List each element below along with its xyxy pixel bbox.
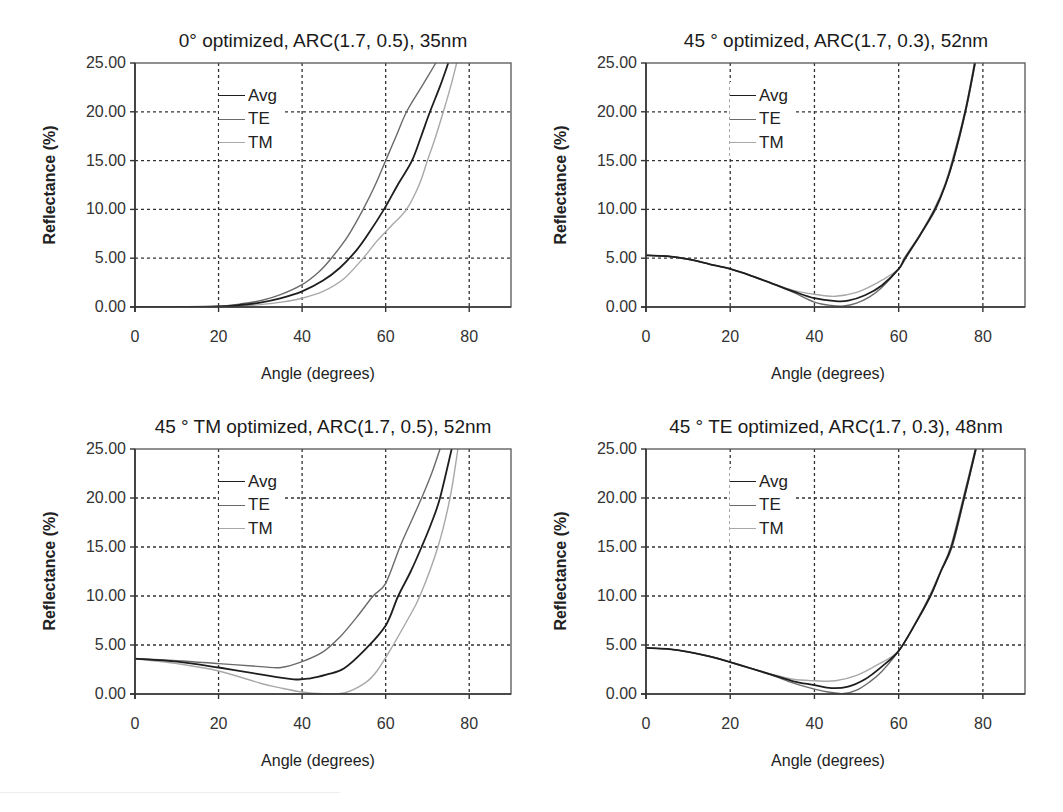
plot-area	[0, 0, 1063, 812]
chart-panel-45deg-te-optimized: 45 ° TE optimized, ARC(1.7, 0.3), 48nm R…	[0, 0, 1063, 812]
legend-label: TM	[759, 519, 784, 539]
legend: Avg TE TM	[730, 468, 794, 543]
scan-artifact-line	[0, 792, 340, 793]
series-line-avg	[646, 449, 976, 688]
series-line-te	[646, 449, 976, 694]
legend-swatch-te	[730, 505, 756, 506]
plot-frame	[646, 449, 1025, 694]
legend-swatch-avg	[730, 481, 756, 482]
legend-swatch-tm	[730, 528, 756, 529]
legend-item-te: TE	[730, 494, 788, 518]
legend-label: Avg	[759, 472, 788, 492]
legend-item-avg: Avg	[730, 470, 788, 494]
legend-label: TE	[759, 495, 781, 515]
legend-item-tm: TM	[730, 517, 788, 541]
series-line-tm	[646, 449, 975, 681]
